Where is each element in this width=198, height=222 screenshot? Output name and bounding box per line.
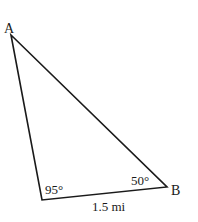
vertex-label-b: B (171, 183, 180, 198)
angle-label-b: 50° (131, 173, 149, 188)
vertex-label-a: A (4, 21, 15, 36)
side-label-cb: 1.5 mi (92, 199, 126, 214)
angle-label-c: 95° (45, 182, 63, 197)
triangle-diagram: A B 95° 50° 1.5 mi (0, 0, 198, 222)
